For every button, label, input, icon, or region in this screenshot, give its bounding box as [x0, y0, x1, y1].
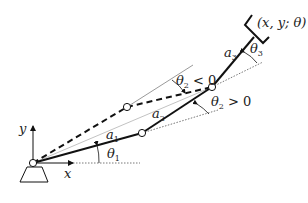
reference-lines — [33, 62, 263, 163]
base-joint — [29, 159, 36, 166]
link2-dotted-extension — [212, 62, 263, 87]
link3-label: a3 — [224, 45, 237, 62]
theta2-neg-label: θ2 < 0 — [176, 73, 216, 90]
theta1-arc — [97, 145, 99, 163]
link1 — [33, 133, 142, 163]
link3 — [212, 37, 254, 87]
theta2-pos-label: θ2 > 0 — [211, 94, 251, 111]
elbow-down-joint — [138, 129, 145, 136]
theta3-label: θ3 — [250, 41, 263, 58]
theta2-pos-arc — [197, 104, 209, 114]
link2-label: a2 — [152, 106, 165, 123]
robot-base — [20, 167, 48, 182]
y-axis-label: y — [18, 121, 27, 136]
end-effector-pose-label: (x, y; θ) — [257, 15, 306, 30]
manipulator-diagram: y x a1 a2 a3 θ1 θ2 < 0 θ2 > 0 θ3 (x, y; … — [0, 0, 308, 203]
elbow-up-joint — [123, 103, 130, 110]
theta1-label: θ1 — [107, 146, 120, 163]
x-axis-label: x — [64, 166, 72, 181]
base-to-wrist-line — [33, 87, 212, 163]
elbow-up-link2 — [127, 87, 212, 107]
elbow-down-configuration — [33, 37, 254, 163]
link1-label: a1 — [106, 127, 119, 144]
